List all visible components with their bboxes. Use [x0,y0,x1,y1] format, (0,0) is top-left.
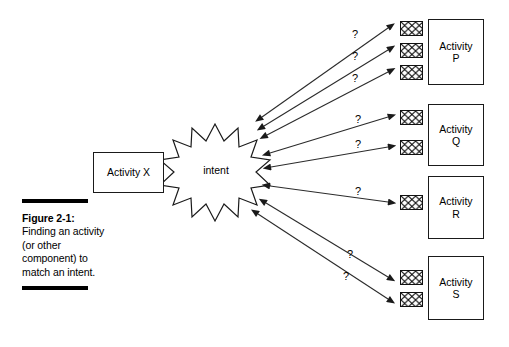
connector-activity-p-2 [264,50,388,126]
crosshatch-icon [401,111,422,124]
caption-rule-top [22,199,88,203]
node-activity-s[interactable]: Activity S [428,256,484,320]
caption-rule-bottom [22,286,88,290]
edge-label-activity-p-3: ? [352,73,358,84]
crosshatch-icon [401,22,422,35]
figure-caption: Figure 2-1: Finding an activity (or othe… [22,199,110,290]
edge-label-activity-r-1: ? [355,186,361,197]
node-activity-q[interactable]: Activity Q [428,104,484,166]
edge-label-activity-s-1: ? [347,249,353,260]
edge-label-activity-q-1: ? [355,114,361,125]
crosshatch-icon [401,271,422,284]
node-activity-x-label: Activity X [107,166,150,179]
node-activity-r[interactable]: Activity R [428,176,484,239]
crosshatch-icon [401,141,422,154]
connector-activity-p-1 [262,28,388,117]
node-activity-p[interactable]: Activity P [428,19,484,85]
intent-filter-activity-p-3 [400,65,423,80]
caption-label: Figure 2-1: [22,212,75,224]
intent-filter-activity-q-2 [400,140,423,155]
node-activity-x[interactable]: Activity X [93,152,164,193]
edge-label-activity-p-2: ? [352,51,358,62]
node-activity-s-label: Activity S [439,276,472,301]
crosshatch-icon [401,196,422,209]
connector-activity-s-1 [266,203,388,277]
node-activity-p-label: Activity P [439,40,472,65]
intent-label: intent [185,164,247,176]
intent-filter-activity-p-1 [400,21,423,36]
node-activity-q-label: Activity Q [439,123,472,148]
figure-diagram: filter tiles --> Activity X intent Activ… [0,0,509,347]
intent-filter-activity-q-1 [400,110,423,125]
edge-label-activity-q-2: ? [355,139,361,150]
connector-activity-p-3 [267,72,388,135]
intent-filter-activity-s-1 [400,270,423,285]
node-activity-r-label: Activity R [439,195,472,220]
edge-label-activity-p-1: ? [352,29,358,40]
crosshatch-icon [401,293,422,306]
edge-label-activity-s-2: ? [343,271,349,282]
crosshatch-icon [401,66,422,79]
crosshatch-icon [401,44,422,57]
intent-to-activity-connectors [258,28,388,299]
connector-activity-q-2 [271,147,388,167]
caption-body: Finding an activity (or other component)… [22,225,104,277]
intent-filter-activity-s-2 [400,292,423,307]
intent-filter-activity-r-1 [400,195,423,210]
connector-activity-q-1 [270,117,388,153]
connector-activity-r-1 [270,186,388,202]
connector-activity-s-2 [258,214,388,299]
intent-filter-activity-p-2 [400,43,423,58]
caption-text: Figure 2-1: Finding an activity (or othe… [22,212,110,279]
